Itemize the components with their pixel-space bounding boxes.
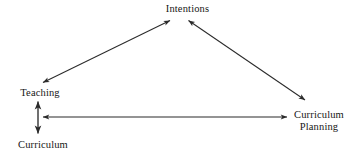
node-label-curriculum: Curriculum	[4, 139, 82, 151]
arrow-teaching-intentions	[43, 21, 170, 83]
node-label-teaching: Teaching	[5, 87, 75, 99]
node-label-curriculum-planning: Curriculum Planning	[284, 109, 354, 132]
arrow-intentions-curriculum-planning	[189, 21, 306, 101]
diagram-arrow-layer	[0, 0, 357, 156]
node-label-intentions: Intentions	[150, 3, 225, 15]
relationship-diagram: Intentions Teaching Curriculum Curriculu…	[0, 0, 357, 156]
